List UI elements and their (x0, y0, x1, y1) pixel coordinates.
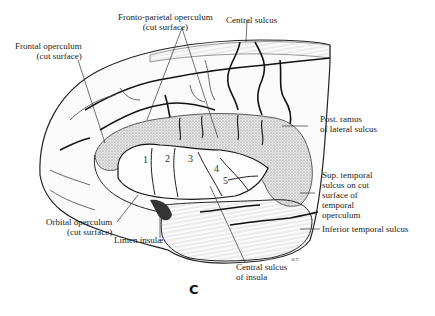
label-line: Post. ramus (320, 114, 377, 124)
label-line: of lateral sulcus (320, 124, 377, 134)
artist-signature: W.Z. (291, 257, 300, 262)
label-line: (cut surface) (46, 227, 112, 237)
label-line: (cut surface) (15, 51, 82, 61)
label-line: Central sulcus (236, 262, 287, 272)
label-inferior-temporal-sulcus: Inferior temporal sulcus (322, 224, 408, 234)
temporal-lobe (161, 200, 312, 261)
gyrus-number-2: 2 (165, 153, 170, 164)
label-line: of insula (236, 272, 287, 282)
label-line: Limen insulæ (114, 235, 163, 245)
label-line: Central sulcus (226, 15, 277, 25)
label-line: temporal (322, 200, 373, 210)
label-line: Inferior temporal sulcus (322, 224, 408, 234)
label-line: (cut surface) (118, 22, 213, 32)
gyrus-number-3: 3 (188, 153, 193, 164)
label-frontal-operculum: Frontal operculum (cut surface) (15, 41, 82, 61)
gyrus-number-5: 5 (223, 175, 228, 186)
panel-letter: C (189, 282, 199, 297)
label-line: operculum (322, 210, 373, 220)
label-line: Orbital operculum (46, 217, 112, 227)
label-line: Fronto-parietal operculum (118, 12, 213, 22)
gyrus-number-4: 4 (214, 163, 219, 174)
label-post-ramus-lateral-sulcus: Post. ramus of lateral sulcus (320, 114, 377, 134)
label-sup-temporal-sulcus: Sup. temporal sulcus on cut surface of t… (322, 170, 373, 220)
label-orbital-operculum: Orbital operculum (cut surface) (46, 217, 112, 237)
label-line: Sup. temporal (322, 170, 373, 180)
label-fronto-parietal-operculum: Fronto-parietal operculum (cut surface) (118, 12, 213, 32)
label-central-sulcus: Central sulcus (226, 15, 277, 25)
gyrus-number-1: 1 (143, 154, 148, 165)
label-line: sulcus on cut (322, 180, 373, 190)
label-line: Frontal operculum (15, 41, 82, 51)
label-line: surface of (322, 190, 373, 200)
label-limen-insulae: Limen insulæ (114, 235, 163, 245)
label-central-sulcus-insula: Central sulcus of insula (236, 262, 287, 282)
